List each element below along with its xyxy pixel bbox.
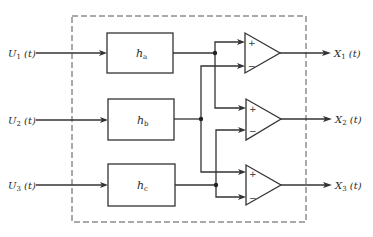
plus-sign: + [249,104,257,114]
net-ha [173,39,246,111]
output-label-x3: X3 (t) [334,180,362,193]
block-hb: hb [108,99,174,140]
plus-sign: + [248,38,256,48]
amplifier-3: + − [246,165,281,205]
minus-sign: − [248,61,256,71]
block-ha: ha [107,33,173,73]
minus-sign: − [249,126,257,136]
block-hc: hc [108,164,175,206]
amplifier-1: + − [245,33,280,73]
input-label-u2: U2 (t) [8,115,36,128]
junction-dot [213,51,217,55]
junction-dot [199,117,203,121]
net-hc [175,127,246,200]
input-label-u3: U3 (t) [8,180,36,193]
plus-sign: + [249,169,257,179]
junction-dot [214,183,218,187]
amplifier-2: + − [246,99,281,140]
minus-sign: − [249,193,257,203]
input-label-u1: U1 (t) [8,48,36,61]
net-hb [174,63,246,175]
output-label-x1: X1 (t) [333,48,361,61]
system-block-diagram: U1 (t) U2 (t) U3 (t) ha hb hc [0,0,373,237]
output-label-x2: X2 (t) [334,114,362,127]
